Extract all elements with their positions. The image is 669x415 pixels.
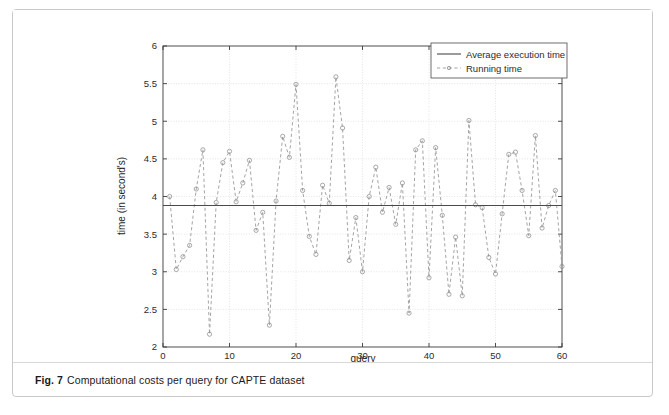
x-tick-label: 60 [557, 350, 568, 361]
y-tick-label: 3 [152, 266, 157, 277]
y-tick-label: 5 [152, 116, 157, 127]
chart-plot-region: 22.533.544.555.56 0102030405060 time (in… [13, 10, 652, 362]
x-tick-label: 40 [424, 350, 435, 361]
chart-svg: 22.533.544.555.56 0102030405060 time (in… [13, 10, 652, 362]
y-tick-label: 4 [152, 191, 157, 202]
y-tick-label: 6 [152, 40, 157, 51]
y-tick-label: 2 [152, 341, 157, 352]
x-axis-title: query [350, 353, 375, 362]
figure-card: 22.533.544.555.56 0102030405060 time (in… [12, 9, 653, 397]
y-tick-label: 5.5 [144, 78, 157, 89]
x-tick-label: 20 [291, 350, 302, 361]
figure-caption-text: Computational costs per query for CAPTE … [67, 374, 305, 386]
y-tick-label: 3.5 [144, 229, 157, 240]
y-tick-label: 2.5 [144, 304, 157, 315]
chart-legend: Average execution time Running time [431, 43, 567, 78]
legend-label-running: Running time [466, 63, 522, 74]
x-tick-label: 0 [160, 350, 165, 361]
y-axis-title: time (in second's) [116, 157, 127, 235]
x-tick-label: 10 [224, 350, 235, 361]
y-tick-label: 4.5 [144, 153, 157, 164]
legend-label-average: Average execution time [466, 49, 565, 60]
figure-number: Fig. 7 [35, 374, 63, 386]
figure-caption: Fig. 7 Computational costs per query for… [13, 363, 652, 396]
x-tick-label: 50 [490, 350, 501, 361]
